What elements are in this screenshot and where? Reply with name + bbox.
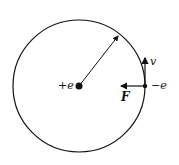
- velocity-label: v: [150, 56, 156, 67]
- force-label: F: [121, 91, 130, 103]
- electron-label: −e: [151, 80, 167, 91]
- nucleus-dot: [76, 83, 83, 90]
- nucleus-label: +e: [58, 80, 74, 91]
- radius-arrow: [79, 36, 118, 86]
